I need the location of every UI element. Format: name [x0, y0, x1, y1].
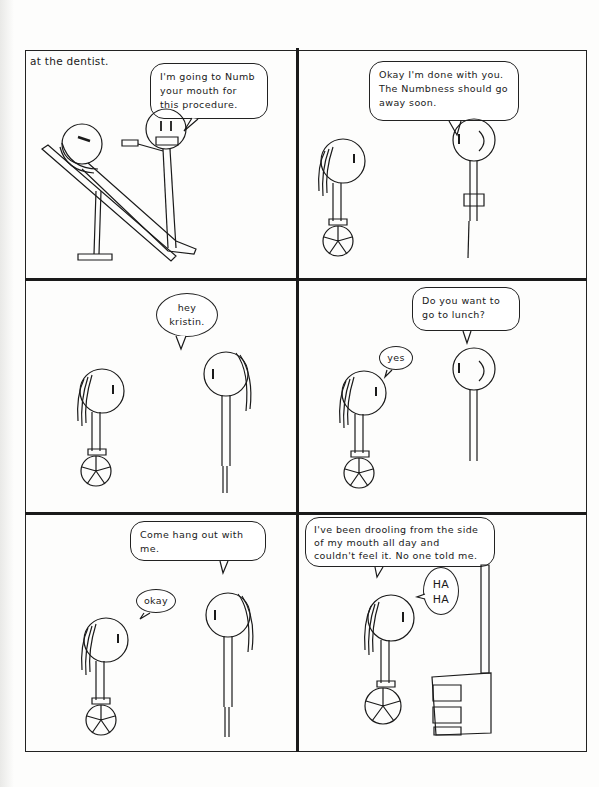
- panel-5: Come hang out with me. okay: [26, 515, 296, 749]
- drooling-reveal-drawing: [299, 515, 586, 749]
- panel-2: Okay I'm done with you. The Numbness sho…: [299, 51, 586, 278]
- panel-3: hey kristin.: [26, 281, 296, 512]
- panel-6: I've been drooling from the side of my m…: [299, 515, 586, 749]
- friend-greeting-drawing: [26, 281, 296, 512]
- hang-out-drawing: [26, 515, 296, 749]
- dentist-and-girl-drawing: [299, 51, 586, 278]
- dentist-scene-drawing: [26, 51, 296, 278]
- panel-4: Do you want to go to lunch? yes: [299, 281, 586, 512]
- lunch-invite-drawing: [299, 281, 586, 512]
- page-edge-shadow: [0, 0, 14, 787]
- panel-1: at the dentist. I'm going to Numb your m…: [26, 51, 296, 278]
